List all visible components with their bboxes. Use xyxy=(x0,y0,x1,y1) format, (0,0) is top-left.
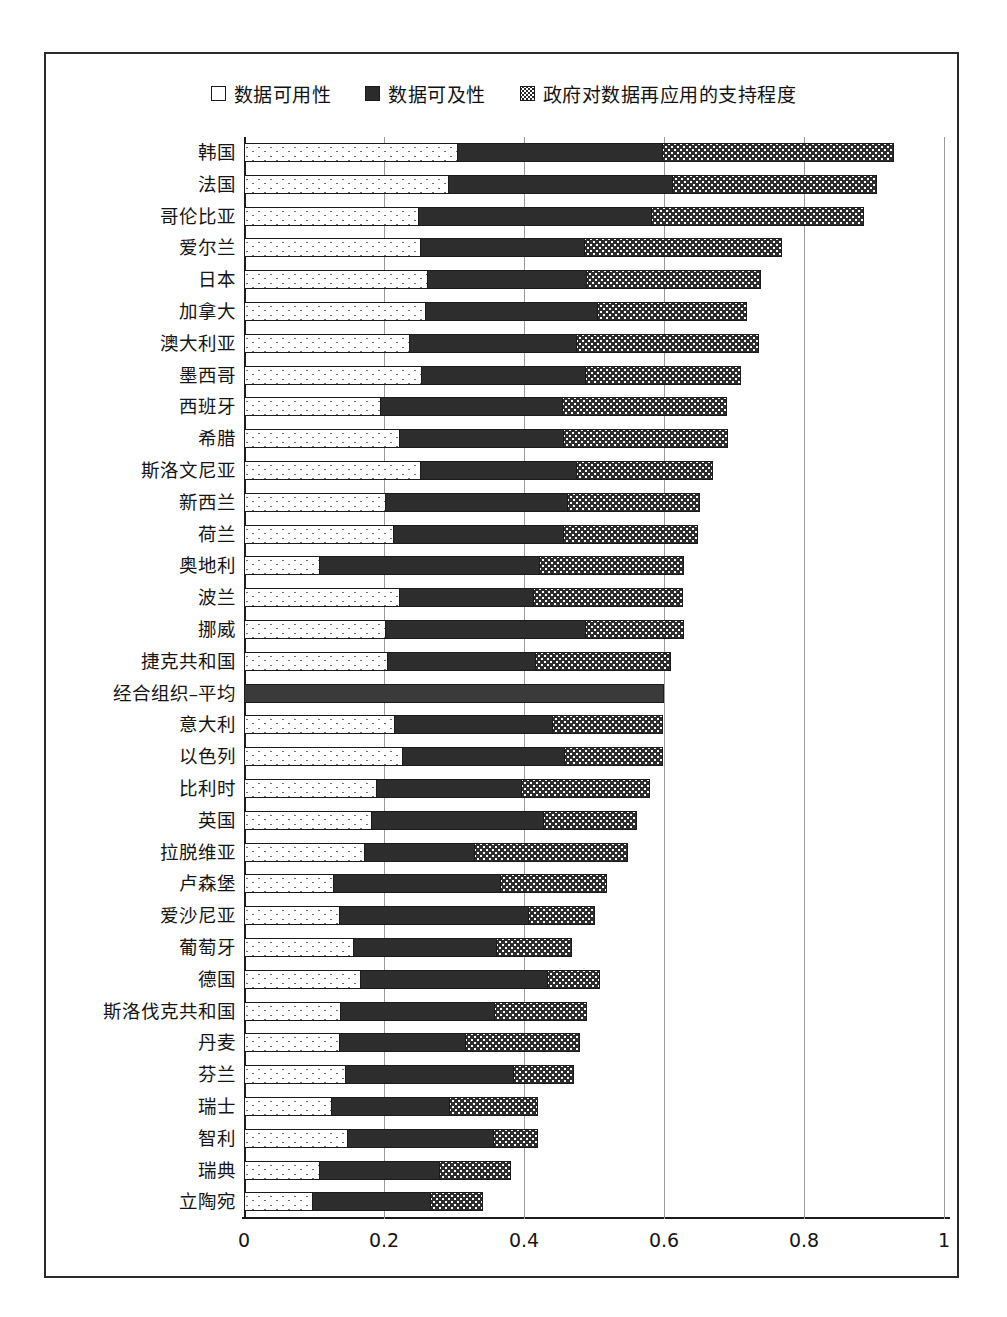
segment-support xyxy=(440,1162,510,1179)
segment-support xyxy=(514,1066,574,1083)
category-label: 芬兰 xyxy=(0,1059,236,1091)
segment-support xyxy=(540,557,682,574)
category-label: 韩国 xyxy=(0,137,236,169)
category-label: 斯洛文尼亚 xyxy=(0,455,236,487)
stacked-bar[interactable] xyxy=(244,429,728,448)
stacked-bar[interactable] xyxy=(244,747,663,766)
stacked-bar[interactable] xyxy=(244,493,700,512)
segment-accessibility xyxy=(449,176,674,193)
segment-support xyxy=(450,1098,537,1115)
legend-item-accessibility[interactable]: 数据可及性 xyxy=(365,80,486,107)
stacked-bar[interactable] xyxy=(244,1192,483,1211)
segment-accessibility xyxy=(334,875,501,892)
stacked-bar[interactable] xyxy=(244,302,747,321)
chart-row: 斯洛伐克共和国 xyxy=(244,996,944,1028)
bar-oecd-average[interactable] xyxy=(244,684,664,703)
segment-support xyxy=(564,526,698,543)
segment-accessibility xyxy=(394,526,563,543)
stacked-bar[interactable] xyxy=(244,843,628,862)
stacked-bar[interactable] xyxy=(244,1097,538,1116)
segment-availability xyxy=(245,462,421,479)
segment-accessibility xyxy=(395,716,553,733)
segment-accessibility xyxy=(340,907,529,924)
chart-row: 墨西哥 xyxy=(244,360,944,392)
stacked-bar[interactable] xyxy=(244,334,759,353)
segment-availability xyxy=(245,875,334,892)
segment-accessibility xyxy=(428,271,588,288)
segment-accessibility xyxy=(386,494,568,511)
chart-row: 卢森堡 xyxy=(244,868,944,900)
segment-availability xyxy=(245,653,388,670)
chart-row: 西班牙 xyxy=(244,391,944,423)
segment-availability xyxy=(245,1130,348,1147)
chart-row: 日本 xyxy=(244,264,944,296)
stacked-bar[interactable] xyxy=(244,715,663,734)
segment-support xyxy=(431,1193,482,1210)
stacked-bar[interactable] xyxy=(244,779,650,798)
category-label: 捷克共和国 xyxy=(0,646,236,678)
category-label: 爱沙尼亚 xyxy=(0,900,236,932)
segment-accessibility xyxy=(377,780,522,797)
segment-accessibility xyxy=(422,367,586,384)
category-label: 墨西哥 xyxy=(0,360,236,392)
chart-page: 数据可用性数据可及性政府对数据再应用的支持程度 韩国法国哥伦比亚爱尔兰日本加拿大… xyxy=(0,0,1007,1317)
category-label: 澳大利亚 xyxy=(0,328,236,360)
segment-support xyxy=(495,1003,586,1020)
category-label: 智利 xyxy=(0,1123,236,1155)
category-label: 以色列 xyxy=(0,741,236,773)
segment-support xyxy=(577,462,712,479)
stacked-bar[interactable] xyxy=(244,525,698,544)
legend-item-availability[interactable]: 数据可用性 xyxy=(211,80,332,107)
open-square-icon xyxy=(211,86,226,101)
stacked-bar[interactable] xyxy=(244,938,572,957)
category-label: 希腊 xyxy=(0,423,236,455)
stacked-bar[interactable] xyxy=(244,556,684,575)
segment-availability xyxy=(245,1003,341,1020)
segment-accessibility xyxy=(365,844,475,861)
chart-row: 希腊 xyxy=(244,423,944,455)
segment-availability xyxy=(245,430,400,447)
segment-accessibility xyxy=(388,653,536,670)
stacked-bar[interactable] xyxy=(244,970,600,989)
stacked-bar[interactable] xyxy=(244,811,637,830)
stacked-bar[interactable] xyxy=(244,874,607,893)
stacked-bar[interactable] xyxy=(244,652,671,671)
category-label: 葡萄牙 xyxy=(0,932,236,964)
legend-label: 政府对数据再应用的支持程度 xyxy=(543,80,797,107)
stacked-bar[interactable] xyxy=(244,1161,511,1180)
category-label: 英国 xyxy=(0,805,236,837)
legend-item-support[interactable]: 政府对数据再应用的支持程度 xyxy=(520,80,797,107)
stacked-bar[interactable] xyxy=(244,1129,538,1148)
chart-row: 经合组织–平均 xyxy=(244,678,944,710)
segment-accessibility xyxy=(361,971,548,988)
stacked-bar[interactable] xyxy=(244,1033,580,1052)
stacked-bar[interactable] xyxy=(244,366,741,385)
stacked-bar[interactable] xyxy=(244,397,727,416)
segment-support xyxy=(585,239,781,256)
stacked-bar[interactable] xyxy=(244,1002,587,1021)
segment-accessibility xyxy=(381,398,563,415)
segment-availability xyxy=(245,271,428,288)
segment-accessibility xyxy=(419,208,651,225)
segment-availability xyxy=(245,239,421,256)
chart-row: 荷兰 xyxy=(244,519,944,551)
stacked-bar[interactable] xyxy=(244,620,684,639)
x-tick-label: 0.6 xyxy=(649,1229,679,1251)
stacked-bar[interactable] xyxy=(244,906,595,925)
category-label: 波兰 xyxy=(0,582,236,614)
segment-availability xyxy=(245,303,426,320)
stacked-bar[interactable] xyxy=(244,270,761,289)
segment-accessibility xyxy=(313,1193,431,1210)
stacked-bar[interactable] xyxy=(244,588,683,607)
stacked-bar[interactable] xyxy=(244,175,877,194)
category-label: 立陶宛 xyxy=(0,1186,236,1218)
segment-support xyxy=(494,1130,537,1147)
stacked-bar[interactable] xyxy=(244,238,782,257)
dotted-square-icon xyxy=(520,86,535,101)
stacked-bar[interactable] xyxy=(244,207,864,226)
stacked-bar[interactable] xyxy=(244,1065,574,1084)
stacked-bar[interactable] xyxy=(244,461,713,480)
chart-row: 爱沙尼亚 xyxy=(244,900,944,932)
stacked-bar[interactable] xyxy=(244,143,894,162)
chart-legend: 数据可用性数据可及性政府对数据再应用的支持程度 xyxy=(46,80,961,107)
